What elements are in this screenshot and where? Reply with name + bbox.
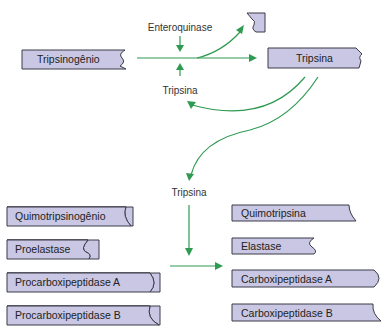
carboxipeptidase-a-box: Carboxipeptidase A — [232, 270, 379, 287]
proelastase-label: Proelastase — [15, 243, 71, 255]
carboxipeptidase-b-label: Carboxipeptidase B — [241, 307, 333, 319]
quimotripsinogenio-box: Quimotripsinogênio — [7, 207, 133, 226]
tripsina-catalyst-label: Tripsina — [171, 187, 207, 198]
conversion-arrow — [170, 262, 223, 270]
peptide-fragment-icon — [247, 13, 265, 32]
feedback-arrow — [187, 77, 305, 111]
procarboxipeptidase-a-box: Procarboxipeptidase A — [7, 273, 160, 292]
proelastase-box: Proelastase — [7, 240, 99, 259]
quimotripsinogenio-label: Quimotripsinogênio — [15, 210, 106, 222]
zymogen-activation-diagram: Tripsinogênio Enteroquinase Tripsina Tri… — [0, 0, 390, 333]
catalyst-arrow — [185, 205, 193, 256]
tripsinogenio-label: Tripsinogênio — [37, 53, 100, 65]
tripsina-label: Tripsina — [296, 52, 333, 64]
procarboxipeptidase-a-label: Procarboxipeptidase A — [15, 276, 120, 288]
tripsinogenio-box: Tripsinogênio — [22, 50, 126, 69]
enteroquinase-arrow — [176, 36, 184, 52]
tripsina-box: Tripsina — [268, 48, 362, 68]
procarboxipeptidase-b-box: Procarboxipeptidase B — [7, 306, 160, 325]
tripsina-autocatalyst-label: Tripsina — [162, 85, 198, 96]
carboxipeptidase-a-label: Carboxipeptidase A — [241, 273, 332, 285]
quimotripsina-box: Quimotripsina — [232, 205, 356, 221]
tripsina-autocatalysis-arrow — [176, 63, 184, 76]
quimotripsina-label: Quimotripsina — [241, 207, 306, 219]
elastase-label: Elastase — [241, 240, 281, 252]
procarboxipeptidase-b-label: Procarboxipeptidase B — [15, 309, 121, 321]
carboxipeptidase-b-box: Carboxipeptidase B — [232, 304, 381, 321]
cascade-arrow — [186, 77, 318, 181]
elastase-box: Elastase — [232, 238, 316, 254]
enteroquinase-label: Enteroquinase — [148, 22, 213, 33]
